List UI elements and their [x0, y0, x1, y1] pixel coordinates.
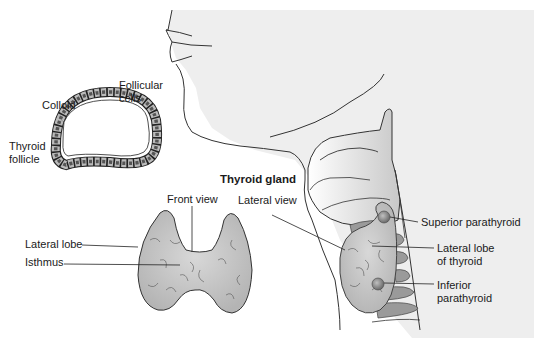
label-line-1: Follicular	[119, 79, 163, 91]
label-line-2: cells	[119, 92, 141, 104]
diagram-title: Thyroid gland	[220, 173, 296, 186]
label-line-1: Inferior	[437, 279, 471, 291]
front-view-thyroid	[138, 210, 252, 313]
label-thyroid-follicle: Thyroid follicle	[9, 140, 46, 166]
label-isthmus: Isthmus	[25, 256, 64, 269]
label-follicular-cells: Follicular cells	[119, 79, 163, 105]
label-front-view: Front view	[167, 193, 218, 206]
label-line-1: Lateral lobe	[437, 242, 495, 254]
label-line-1: Thyroid	[9, 140, 46, 152]
label-superior-parathyroid: Superior parathyroid	[421, 216, 521, 229]
label-line-2: follicle	[9, 153, 40, 165]
label-colloid: Colloid	[42, 99, 76, 112]
label-line-2: of thyroid	[437, 255, 482, 267]
label-lateral-view: Lateral view	[238, 194, 297, 207]
superior-parathyroid	[378, 211, 390, 223]
label-lateral-lobe: Lateral lobe	[25, 238, 83, 251]
inferior-parathyroid	[372, 278, 384, 290]
label-line-2: parathyroid	[437, 292, 492, 304]
label-lateral-lobe-of-thyroid: Lateral lobe of thyroid	[437, 242, 495, 268]
label-inferior-parathyroid: Inferior parathyroid	[437, 279, 492, 305]
